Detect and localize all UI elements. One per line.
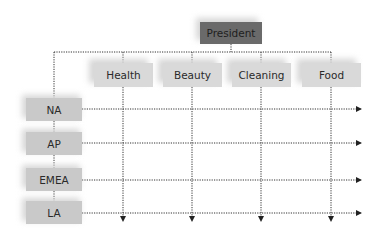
- function-label: Food: [319, 69, 344, 81]
- region-label: NA: [46, 104, 61, 116]
- region-box-emea: EMEA: [26, 168, 82, 191]
- region-box-na: NA: [26, 98, 82, 121]
- function-box-health: Health: [94, 63, 153, 87]
- president-label: President: [207, 27, 256, 39]
- region-box-la: LA: [26, 201, 82, 224]
- function-label: Beauty: [174, 69, 211, 81]
- function-label: Health: [106, 69, 140, 81]
- function-box-food: Food: [302, 63, 361, 87]
- region-label: LA: [47, 207, 60, 219]
- function-box-cleaning: Cleaning: [232, 63, 291, 87]
- region-label: AP: [47, 138, 61, 150]
- region-box-ap: AP: [26, 132, 82, 155]
- president-box: President: [200, 22, 262, 44]
- function-box-beauty: Beauty: [163, 63, 222, 87]
- function-label: Cleaning: [238, 69, 284, 81]
- region-label: EMEA: [39, 174, 69, 186]
- matrix-org-diagram: President Health Beauty Cleaning Food NA…: [0, 0, 382, 243]
